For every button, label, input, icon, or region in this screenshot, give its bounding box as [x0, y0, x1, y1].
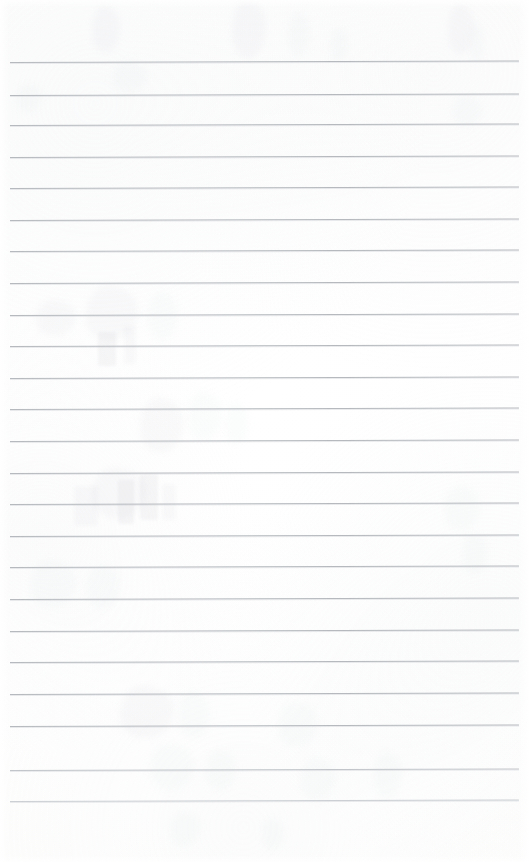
paper-background — [0, 0, 529, 862]
notebook-page — [0, 0, 529, 862]
